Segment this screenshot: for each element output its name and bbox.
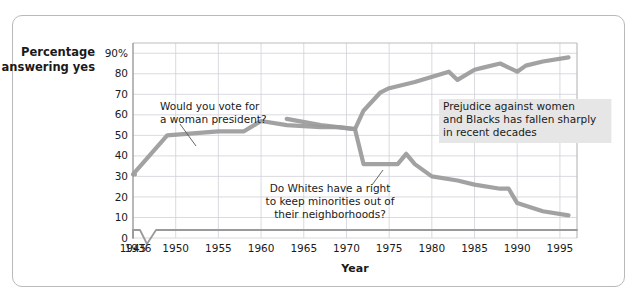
annotations-group: Would you vote fora woman president?Do W… — [160, 99, 611, 220]
y-axis-title: Percentage answering yes — [2, 45, 96, 74]
x-tick-label: 1950 — [162, 242, 189, 254]
y-axis-tick-labels: 0102030405060708090% — [105, 47, 128, 244]
x-tick-label: 1960 — [248, 242, 275, 254]
x-axis-tick-labels: 1936194519501955196019651970197519801985… — [120, 242, 574, 254]
annot-whites-right-line: Do Whites have a right — [270, 182, 391, 194]
annot-whites-right-line: to keep minorities out of — [266, 195, 395, 207]
x-tick-label: 1995 — [547, 242, 574, 254]
annot-prejudice-line: and Blacks has fallen sharply — [443, 113, 596, 125]
y-tick-label: 50 — [115, 129, 128, 141]
y-tick-label: 60 — [115, 108, 128, 120]
y-tick-label: 70 — [115, 88, 128, 100]
y-tick-label: 20 — [115, 191, 128, 203]
x-tick-label: 1970 — [333, 242, 360, 254]
annot-woman-president-line: Would you vote for — [160, 100, 260, 112]
annot-whites-right: Do Whites have a rightto keep minorities… — [266, 170, 395, 220]
y-axis-title-line1: Percentage — [21, 45, 95, 59]
annot-prejudice: Prejudice against womenand Blacks has fa… — [439, 99, 611, 143]
annot-whites-right-line: their neighborhoods? — [274, 208, 386, 220]
annot-prejudice-line: Prejudice against women — [443, 100, 575, 112]
y-tick-label: 10 — [115, 211, 128, 223]
x-tick-label: 1980 — [418, 242, 445, 254]
x-tick-label: 1965 — [290, 242, 317, 254]
y-tick-label: 30 — [115, 170, 128, 182]
y-tick-label: 90% — [105, 47, 128, 59]
x-tick-label: 1990 — [504, 242, 531, 254]
y-tick-label: 40 — [115, 149, 128, 161]
annot-woman-president-line: a woman president? — [160, 113, 267, 125]
chart-figure: 0102030405060708090% 1936194519501955196… — [0, 0, 639, 299]
x-tick-label: 1955 — [205, 242, 232, 254]
x-axis-title: Year — [340, 262, 369, 275]
line-chart-svg: 0102030405060708090% 1936194519501955196… — [0, 0, 639, 299]
y-axis-title-line2: answering yes — [2, 60, 96, 74]
x-tick-label: 1975 — [376, 242, 403, 254]
annot-prejudice-line: in recent decades — [443, 126, 537, 138]
x-tick-label: 1945 — [120, 242, 147, 254]
x-tick-label: 1985 — [461, 242, 488, 254]
y-tick-label: 80 — [115, 67, 128, 79]
